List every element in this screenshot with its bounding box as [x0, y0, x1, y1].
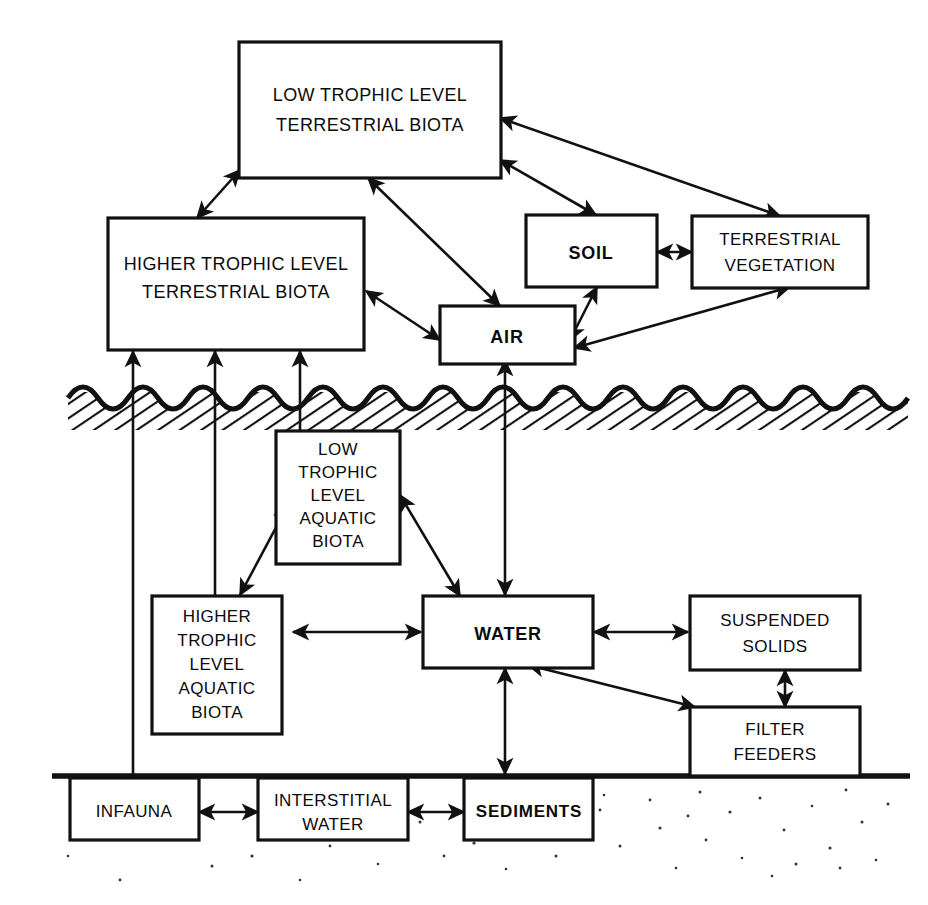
arrow-low-terrestrial-soil — [500, 160, 596, 215]
box-vegetation-line-2: VEGETATION — [724, 256, 835, 275]
box-water-label: WATER — [474, 624, 542, 644]
box-soil-label: SOIL — [568, 243, 613, 263]
box-low-aquatic-line-4: AQUATIC — [299, 509, 376, 528]
box-low-terrestrial-line-1: LOW TROPHIC LEVEL — [273, 85, 468, 105]
compartment-boxes: LOW TROPHIC LEVEL TERRESTRIAL BIOTA HIGH… — [70, 42, 868, 840]
box-terrestrial-vegetation[interactable]: TERRESTRIAL VEGETATION — [692, 216, 868, 288]
box-vegetation-line-1: TERRESTRIAL — [719, 230, 841, 249]
box-filter-feeders-line-2: FEEDERS — [733, 745, 816, 764]
arrow-low-terrestrial-vegetation — [500, 118, 780, 216]
box-filter-feeders-line-1: FILTER — [745, 720, 805, 739]
water-surface-group — [68, 387, 908, 432]
compartment-diagram: LOW TROPHIC LEVEL TERRESTRIAL BIOTA HIGH… — [0, 0, 928, 905]
box-higher-terrestrial-line-1: HIGHER TROPHIC LEVEL — [124, 254, 349, 274]
box-suspended-solids-line-2: SOLIDS — [743, 637, 808, 656]
box-low-aquatic-line-5: BIOTA — [312, 532, 364, 551]
box-low-aquatic-line-3: LEVEL — [311, 486, 366, 505]
arrow-vegetation-air — [574, 287, 790, 348]
box-suspended-solids-line-1: SUSPENDED — [720, 611, 829, 630]
box-low-terrestrial-line-2: TERRESTRIAL BIOTA — [276, 115, 464, 135]
arrow-low-terrestrial-higher-terrestrial — [197, 170, 240, 218]
arrow-higher-terrestrial-air — [366, 291, 440, 340]
box-higher-trophic-terrestrial-biota[interactable]: HIGHER TROPHIC LEVEL TERRESTRIAL BIOTA — [108, 218, 364, 350]
box-low-trophic-terrestrial-biota[interactable]: LOW TROPHIC LEVEL TERRESTRIAL BIOTA — [239, 42, 501, 178]
box-sediments[interactable]: SEDIMENTS — [464, 778, 593, 840]
box-higher-aquatic-line-1: HIGHER — [183, 607, 252, 626]
box-low-trophic-aquatic-biota[interactable]: LOW TROPHIC LEVEL AQUATIC BIOTA — [276, 431, 400, 564]
box-sediments-label: SEDIMENTS — [476, 802, 582, 821]
arrow-low-terrestrial-air — [368, 178, 500, 306]
box-air[interactable]: AIR — [440, 306, 575, 364]
box-higher-aquatic-line-3: LEVEL — [190, 655, 245, 674]
box-air-label: AIR — [490, 327, 523, 347]
box-higher-trophic-aquatic-biota[interactable]: HIGHER TROPHIC LEVEL AQUATIC BIOTA — [152, 596, 282, 734]
box-higher-aquatic-line-2: TROPHIC — [177, 631, 256, 650]
box-interstitial-water-line-1: INTERSTITIAL — [274, 791, 392, 810]
box-low-aquatic-line-2: TROPHIC — [298, 463, 377, 482]
box-infauna[interactable]: INFAUNA — [70, 778, 199, 840]
box-water[interactable]: WATER — [423, 596, 593, 668]
box-soil[interactable]: SOIL — [526, 215, 657, 287]
arrow-water-filter-feeders — [528, 665, 695, 707]
box-low-aquatic-line-1: LOW — [318, 440, 358, 459]
box-higher-aquatic-line-4: AQUATIC — [178, 679, 255, 698]
box-infauna-label: INFAUNA — [96, 802, 173, 821]
box-higher-aquatic-line-5: BIOTA — [191, 703, 243, 722]
box-interstitial-water[interactable]: INTERSTITIAL WATER — [258, 778, 408, 840]
box-filter-feeders[interactable]: FILTER FEEDERS — [690, 707, 860, 776]
box-higher-terrestrial-line-2: TERRESTRIAL BIOTA — [142, 282, 330, 302]
box-interstitial-water-line-2: WATER — [302, 815, 364, 834]
arrow-low-aquatic-water — [400, 495, 460, 596]
diagram-canvas: LOW TROPHIC LEVEL TERRESTRIAL BIOTA HIGH… — [0, 0, 928, 905]
box-suspended-solids[interactable]: SUSPENDED SOLIDS — [690, 596, 860, 670]
